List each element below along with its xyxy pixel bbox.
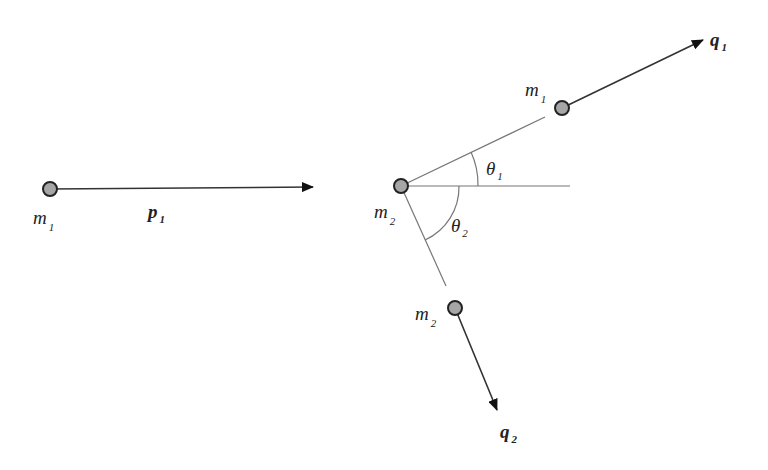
label-q1: q1: [710, 29, 727, 53]
direction-line-m2: [401, 186, 446, 286]
direction-line-m1: [401, 117, 545, 186]
label-m2-initial: m2: [374, 201, 396, 227]
label-theta2: θ2: [451, 215, 468, 239]
label-m2-final: m2: [415, 303, 437, 329]
label-p1: p1: [146, 201, 165, 225]
label-m1-final: m1: [525, 79, 546, 105]
label-theta1: θ1: [486, 158, 503, 182]
collision-diagram: m1 p1 θ1 θ2 m2 m1 q1 m2 q2: [0, 0, 768, 470]
momentum-p1-arrow: [50, 187, 313, 189]
angle-arc-theta1: [471, 152, 478, 186]
particle-m2-initial: [394, 179, 408, 193]
label-m1-initial: m1: [33, 207, 54, 233]
label-q2: q2: [500, 421, 518, 445]
particle-m2-final: [448, 301, 462, 315]
particle-m1-initial: [43, 182, 57, 196]
particle-m1-final: [555, 101, 569, 115]
momentum-q1-arrow: [562, 40, 703, 108]
momentum-q2-arrow: [455, 308, 497, 410]
